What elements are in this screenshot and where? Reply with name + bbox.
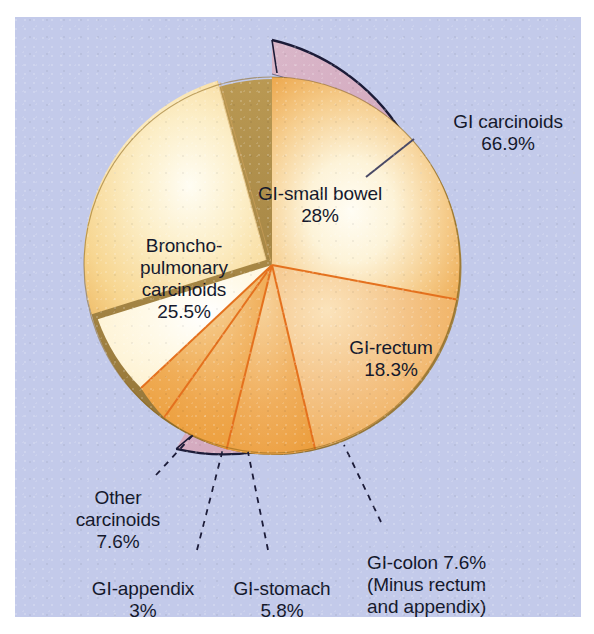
- label-gi-carcinoids-percent: 66.9%: [419, 133, 581, 155]
- label-gi-rectum-name: GI-rectum: [349, 337, 433, 358]
- label-other-carcinoids-percent: 7.6%: [51, 531, 185, 553]
- label-bronchopulmonary: Broncho- pulmonary carcinoids 25.5%: [108, 213, 260, 345]
- label-gi-appendix-name: GI-appendix: [92, 578, 194, 599]
- label-gi-carcinoids-name: GI carcinoids: [453, 111, 563, 132]
- label-gi-stomach-name: GI-stomach: [233, 578, 330, 599]
- label-gi-colon-name: GI-colon 7.6%: [367, 552, 486, 573]
- leader-gi-colon: [344, 445, 381, 522]
- chart-panel: GI carcinoids 66.9% GI-small bowel 28% B…: [15, 17, 581, 617]
- label-gi-carcinoids: GI carcinoids 66.9%: [419, 89, 581, 177]
- label-bronchopulmonary-name: Broncho- pulmonary carcinoids: [140, 235, 228, 300]
- label-gi-colon: GI-colon 7.6% (Minus rectum and appendix…: [367, 530, 567, 617]
- label-gi-stomach: GI-stomach 5.8%: [212, 556, 352, 617]
- label-gi-rectum-percent: 18.3%: [317, 359, 465, 381]
- label-bronchopulmonary-percent: 25.5%: [108, 301, 260, 323]
- label-gi-appendix-percent: 3%: [73, 600, 213, 617]
- label-gi-appendix: GI-appendix 3%: [73, 556, 213, 617]
- label-gi-small-bowel-name: GI-small bowel: [258, 183, 382, 204]
- figure-root: GI carcinoids 66.9% GI-small bowel 28% B…: [0, 0, 594, 634]
- label-other-carcinoids-name: Other carcinoids: [76, 487, 161, 530]
- label-gi-colon-note: (Minus rectum and appendix): [367, 574, 567, 617]
- label-gi-stomach-percent: 5.8%: [212, 600, 352, 617]
- label-gi-rectum: GI-rectum 18.3%: [317, 315, 465, 403]
- leader-gi-stomach: [248, 452, 268, 550]
- leader-gi-appendix: [197, 449, 223, 550]
